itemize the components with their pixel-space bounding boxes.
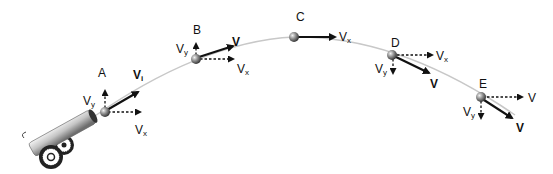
- v-arrow-e: [484, 100, 512, 118]
- vx-label-a: Vx: [135, 124, 147, 138]
- point-label-c: C: [296, 11, 305, 23]
- vx-label-e: V: [528, 92, 536, 106]
- v-label-a: Vi: [133, 69, 143, 83]
- vx-label-c: Vx: [339, 31, 351, 45]
- ball-icon: [100, 107, 110, 117]
- point-label-a: A: [98, 67, 106, 79]
- v-arrow-b: [199, 46, 233, 57]
- point-c: [289, 32, 335, 42]
- vx-label-b: Vx: [237, 63, 249, 77]
- ball-icon: [289, 32, 299, 42]
- projectile-motion-diagram: [0, 0, 553, 174]
- point-label-e: E: [479, 78, 487, 90]
- cannon-icon: [22, 108, 99, 169]
- v-label-d: V: [430, 78, 438, 92]
- vy-label-b: Vy: [176, 43, 188, 57]
- vx-label-d: Vx: [436, 50, 448, 64]
- trajectory-curve: [92, 37, 515, 118]
- v-label-b: V: [232, 36, 240, 50]
- ball-icon: [191, 54, 201, 64]
- ball-icon: [476, 92, 486, 102]
- point-label-b: B: [193, 24, 201, 36]
- vy-label-e: Vy: [463, 106, 475, 120]
- ball-icon: [387, 50, 397, 60]
- point-label-d: D: [391, 37, 400, 49]
- point-a: [100, 91, 140, 117]
- vy-label-d: Vy: [375, 63, 387, 77]
- point-d: [387, 50, 432, 73]
- v-arrow-a: [107, 92, 138, 110]
- vy-label-a: Vy: [83, 95, 95, 109]
- v-label-e: V: [516, 122, 524, 136]
